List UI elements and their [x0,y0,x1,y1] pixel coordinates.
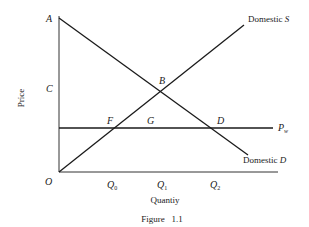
label-a: A [45,13,53,24]
label-g: G [147,115,154,126]
label-c: C [46,83,53,94]
label-q0: Q0 [107,179,117,191]
x-axis-title: Quantiy [151,195,180,205]
y-axis-title: Price [16,89,26,108]
label-domestic-demand: Domestic D [243,155,287,165]
label-d: D [216,115,225,126]
domestic-supply-curve [59,25,244,172]
figure-caption: Figure 1.1 [141,214,183,224]
label-world-price: Pw [277,122,288,134]
label-q2: Q2 [210,179,220,191]
label-origin: O [45,176,52,187]
supply-demand-diagram: A C O Price B F G D Pw Domestic S Domest… [0,0,309,227]
label-domestic-supply: Domestic S [248,14,290,24]
domestic-demand-curve [59,18,248,155]
label-f: F [106,115,114,126]
label-q1: Q1 [157,179,167,191]
label-b: B [159,75,165,86]
